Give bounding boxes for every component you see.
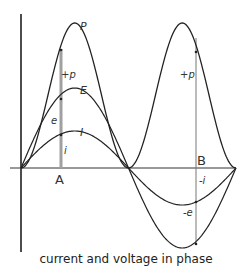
label-b: B [197, 153, 206, 168]
label-i-small: i [64, 145, 67, 156]
arrow-tip-i-b [195, 201, 198, 204]
label-a: A [55, 172, 64, 187]
label-plus-p-a: +p [61, 69, 76, 80]
label-i-curve: I [80, 126, 83, 139]
label-minus-i: -i [199, 175, 206, 186]
arrow-tip-e-a [60, 98, 63, 101]
label-p: P [80, 20, 87, 33]
caption: current and voltage in phase [0, 252, 252, 266]
label-plus-p-b: +p [180, 69, 195, 80]
label-e-curve: E [80, 84, 87, 97]
instant-bar-a [60, 49, 63, 168]
power-curve [21, 23, 236, 168]
arrow-tip-p-a [60, 49, 63, 52]
waveform-diagram: P E I +p e i A +p B -i -e [0, 0, 252, 273]
label-minus-e: -e [183, 207, 193, 218]
arrow-tip-i-a [60, 134, 63, 137]
arrow-tip-p-b [195, 51, 198, 54]
label-e-small: e [51, 115, 57, 126]
arrow-tip-e-b [195, 243, 198, 246]
